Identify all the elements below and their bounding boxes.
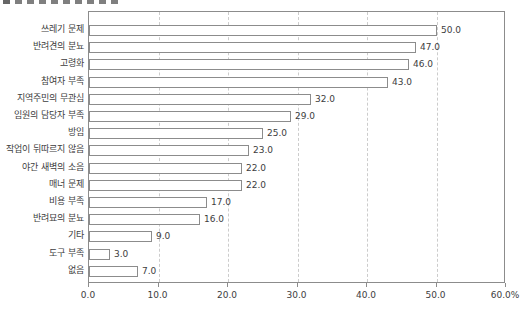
x-tick-label-0: 0.0 [66,290,110,300]
category-label-4: 지역주민의 무관심 [0,93,84,104]
bar-2 [89,59,409,70]
bar-0 [89,25,437,36]
bar-value-label-2: 46.0 [413,59,433,70]
bar-value-label-10: 17.0 [211,197,231,208]
bar-value-label-3: 43.0 [392,77,412,88]
category-label-13: 도구 부족 [0,248,84,259]
category-label-2: 고령화 [0,58,84,69]
bar-6 [89,128,263,139]
bar-8 [89,163,242,174]
bar-value-label-9: 22.0 [246,180,266,191]
x-tick-60 [505,283,506,287]
category-label-5: 임원의 담당자 부족 [0,110,84,121]
bar-value-label-4: 32.0 [315,94,335,105]
category-label-9: 매너 문제 [0,179,84,190]
category-label-12: 기타 [0,230,84,241]
category-label-14: 없음 [0,265,84,276]
bar-12 [89,231,152,242]
category-label-6: 방임 [0,127,84,138]
bar-value-label-13: 3.0 [114,249,128,260]
bar-10 [89,197,207,208]
category-label-7: 작업이 뒤따르지 않음 [0,144,84,155]
bar-9 [89,180,242,191]
bar-13 [89,249,110,260]
x-tick-50 [436,283,437,287]
bar-value-label-8: 22.0 [246,163,266,174]
x-tick-label-30: 30.0 [275,290,319,300]
bar-5 [89,111,291,122]
bar-4 [89,94,311,105]
category-label-8: 야간 새벽의 소음 [0,162,84,173]
bar-14 [89,266,138,277]
category-label-1: 반려견의 분뇨 [0,41,84,52]
bar-chart-figure: 50.047.046.043.032.029.025.023.022.022.0… [0,0,526,310]
x-tick-30 [297,283,298,287]
bar-value-label-5: 29.0 [295,111,315,122]
x-tick-10 [158,283,159,287]
bar-value-label-0: 50.0 [441,25,461,36]
x-tick-label-40: 40.0 [344,290,388,300]
bar-value-label-7: 23.0 [253,145,273,156]
x-tick-label-10: 10.0 [136,290,180,300]
x-tick-label-20: 20.0 [205,290,249,300]
x-tick-label-60: 60.0% [483,290,526,300]
x-tick-0 [88,283,89,287]
bar-value-label-14: 7.0 [142,266,156,277]
x-tick-label-50: 50.0 [414,290,458,300]
cropped-title-bullet-icon [3,0,10,4]
bar-value-label-1: 47.0 [420,42,440,53]
bar-value-label-12: 9.0 [156,231,170,242]
bar-value-label-11: 16.0 [204,214,224,225]
category-label-11: 반려묘의 분뇨 [0,213,84,224]
bar-7 [89,145,249,156]
x-tick-40 [366,283,367,287]
bar-3 [89,77,388,88]
bar-value-label-6: 25.0 [267,128,287,139]
category-label-10: 비용 부족 [0,196,84,207]
bar-1 [89,42,416,53]
bar-11 [89,214,200,225]
category-label-3: 참여자 부족 [0,76,84,87]
cropped-title-remnant [3,0,121,4]
category-label-0: 쓰레기 문제 [0,24,84,35]
plot-area: 50.047.046.043.032.029.025.023.022.022.0… [88,11,505,283]
x-tick-20 [227,283,228,287]
